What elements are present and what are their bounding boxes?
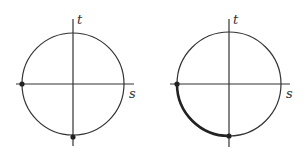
right-circle-figure: t s [170, 12, 293, 147]
s-axis-label: s [129, 86, 136, 101]
left-point [174, 81, 179, 86]
bottom-point [70, 134, 75, 139]
highlighted-arc [177, 84, 229, 136]
left-point [19, 81, 24, 86]
t-axis-label: t [233, 12, 239, 27]
unit-circle-diagrams: t s t s [0, 0, 308, 156]
s-axis-label: s [286, 86, 293, 101]
left-circle-figure: t s [16, 12, 136, 146]
bottom-point [226, 133, 231, 138]
t-axis-label: t [77, 12, 83, 27]
